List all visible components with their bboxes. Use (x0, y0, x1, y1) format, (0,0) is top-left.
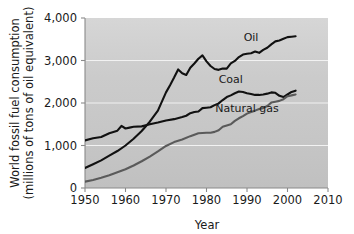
x-axis-ticks: 1950196019701980199020002010 (70, 188, 342, 207)
y-axis-title-line2: (millions of tons of oil equivalent) (22, 7, 36, 200)
y-tick-label-4000: 4,000 (44, 11, 77, 25)
x-tick-label-2000: 2000 (273, 193, 302, 207)
x-tick-label-1960: 1960 (111, 193, 140, 207)
series-label-oil: Oil (244, 31, 259, 44)
y-tick-label-2000: 2,000 (44, 96, 77, 110)
series-label-coal: Coal (219, 73, 243, 86)
y-tick-label-1000: 1,000 (44, 139, 77, 153)
y-tick-label-3000: 3,000 (44, 54, 77, 68)
series-label-natural-gas: Natural gas (215, 102, 279, 115)
x-tick-label-1990: 1990 (232, 193, 261, 207)
x-tick-label-2010: 2010 (313, 193, 342, 207)
y-axis-title-line1: World fossil fuel consumption (8, 18, 22, 187)
x-tick-label-1970: 1970 (151, 193, 180, 207)
y-axis-ticks: 01,0002,0003,0004,000 (44, 11, 85, 195)
chart-figure: 01,0002,0003,0004,000 195019601970198019… (0, 0, 354, 234)
x-tick-label-1950: 1950 (70, 193, 99, 207)
x-tick-label-1980: 1980 (192, 193, 221, 207)
fossil-fuel-line-chart: 01,0002,0003,0004,000 195019601970198019… (0, 0, 354, 234)
x-axis-title: Year (194, 218, 220, 232)
